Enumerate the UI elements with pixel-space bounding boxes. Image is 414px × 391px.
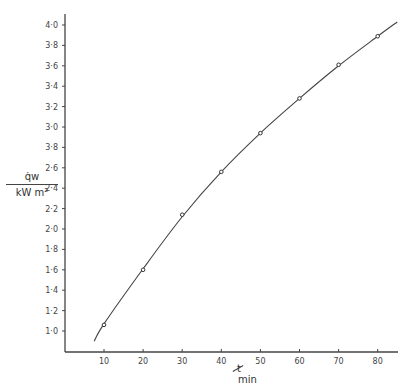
y-tick-label: 2·2 bbox=[45, 205, 58, 214]
x-tick-label: 60 bbox=[294, 357, 304, 366]
y-tick-label: 3·8 bbox=[45, 41, 58, 50]
data-point bbox=[376, 34, 380, 38]
x-axis-label-quantity: t bbox=[237, 363, 241, 374]
y-axis-label-unit: kW m² bbox=[6, 185, 58, 199]
y-tick-label: 1·6 bbox=[45, 266, 58, 275]
x-axis-label-unit: min bbox=[238, 374, 257, 385]
y-axis-label-quantity: q̇w bbox=[6, 170, 58, 185]
fitted-curve bbox=[94, 22, 397, 341]
x-tick-label: 10 bbox=[99, 357, 109, 366]
y-tick-label: 3·2 bbox=[45, 103, 58, 112]
y-tick-label: 3·0 bbox=[45, 123, 58, 132]
data-point bbox=[337, 63, 341, 67]
y-tick-label: 1·2 bbox=[45, 307, 58, 316]
x-tick-label: 50 bbox=[255, 357, 265, 366]
data-point bbox=[220, 170, 224, 174]
data-point bbox=[298, 97, 302, 101]
y-tick-label: 3·4 bbox=[45, 82, 58, 91]
data-point bbox=[259, 131, 263, 135]
x-tick-label: 40 bbox=[216, 357, 226, 366]
chart-canvas: 1·01·21·41·61·82·02·22·42·63·83·03·23·43… bbox=[0, 0, 414, 391]
y-tick-label: 1·0 bbox=[45, 327, 58, 336]
y-tick-label: 1·4 bbox=[45, 286, 58, 295]
y-tick-label: 3·8 bbox=[45, 143, 58, 152]
x-tick-label: 20 bbox=[138, 357, 148, 366]
x-tick-label: 70 bbox=[334, 357, 344, 366]
data-point bbox=[141, 268, 145, 272]
y-tick-label: 3·6 bbox=[45, 62, 58, 71]
y-axis-label: q̇w kW m² bbox=[6, 170, 58, 199]
x-tick-label: 80 bbox=[373, 357, 383, 366]
data-point bbox=[180, 213, 184, 217]
y-tick-label: 1·8 bbox=[45, 245, 58, 254]
data-points bbox=[102, 34, 379, 326]
data-point bbox=[102, 323, 106, 327]
y-tick-label: 2·0 bbox=[45, 225, 58, 234]
y-tick-label: 4·0 bbox=[45, 21, 58, 30]
axes: 1·01·21·41·61·82·02·22·42·63·83·03·23·43… bbox=[45, 14, 398, 366]
x-tick-label: 30 bbox=[177, 357, 187, 366]
